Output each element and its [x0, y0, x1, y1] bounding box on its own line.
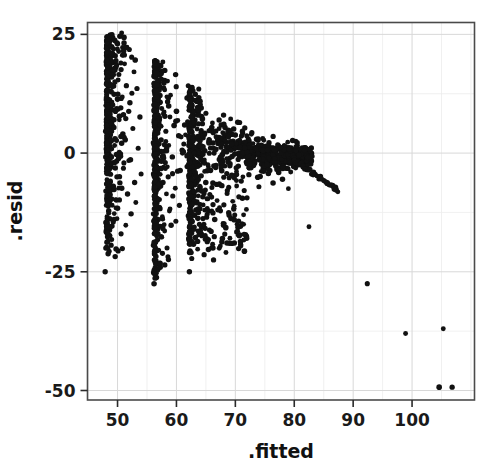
data-point: [305, 155, 311, 161]
data-point: [168, 223, 173, 228]
data-point: [272, 148, 277, 153]
x-tick-label: 80: [282, 410, 306, 430]
data-point: [165, 246, 170, 251]
x-tick-label: 90: [341, 410, 365, 430]
data-point: [182, 122, 188, 128]
data-point: [115, 91, 120, 96]
data-point: [158, 115, 163, 120]
data-point: [219, 183, 224, 188]
data-point: [241, 238, 246, 243]
data-point: [117, 114, 122, 119]
y-axis-title: .resid: [4, 181, 26, 242]
data-point: [153, 185, 158, 190]
data-point: [187, 88, 192, 93]
y-tick-label: 25: [52, 24, 76, 44]
data-point: [187, 237, 192, 242]
data-point: [188, 99, 193, 104]
data-point: [117, 180, 122, 185]
data-point: [200, 146, 205, 151]
data-point: [164, 148, 169, 153]
data-point: [206, 196, 211, 201]
plot-canvas: 5060708090100 250-25-50 .fitted .resid: [0, 0, 502, 472]
data-point: [193, 173, 198, 178]
data-point: [206, 209, 211, 214]
data-point: [186, 231, 192, 237]
data-point: [202, 252, 207, 257]
data-point: [174, 84, 179, 89]
data-point: [108, 172, 113, 177]
data-point: [127, 100, 132, 105]
data-point: [106, 158, 112, 164]
data-point: [166, 174, 171, 179]
data-point: [152, 193, 157, 198]
data-point: [166, 103, 172, 109]
scatter-plot-figure: 5060708090100 250-25-50 .fitted .resid: [0, 0, 502, 472]
data-point: [198, 228, 203, 233]
data-point: [170, 193, 175, 198]
data-point: [168, 115, 173, 120]
data-point: [180, 151, 185, 156]
y-tick-label: -50: [45, 381, 76, 401]
data-point: [154, 146, 159, 151]
data-point: [121, 166, 126, 171]
data-point: [221, 175, 226, 180]
data-point: [234, 178, 239, 183]
data-point: [189, 182, 194, 187]
data-point: [219, 239, 224, 244]
data-point: [255, 151, 260, 156]
data-point: [159, 77, 164, 82]
data-point: [162, 142, 167, 147]
data-point: [261, 168, 267, 174]
data-point: [151, 281, 157, 287]
data-point: [249, 132, 254, 137]
data-point: [217, 126, 222, 131]
data-point: [152, 272, 157, 277]
data-point: [136, 146, 141, 151]
data-point: [286, 186, 291, 191]
data-point: [154, 71, 160, 77]
data-point: [236, 157, 241, 162]
data-point: [205, 162, 210, 167]
data-point: [244, 133, 249, 138]
data-point: [197, 184, 202, 189]
x-tick-label: 100: [394, 410, 430, 430]
data-point: [207, 138, 212, 143]
data-point: [271, 134, 276, 139]
data-point: [278, 145, 283, 150]
data-point: [188, 160, 193, 165]
data-point: [239, 221, 244, 226]
data-point: [177, 168, 182, 173]
data-point: [104, 152, 109, 157]
data-point: [211, 257, 216, 262]
data-point: [200, 194, 205, 199]
data-point: [117, 197, 122, 202]
data-point: [104, 46, 109, 51]
data-point: [160, 226, 165, 231]
data-point: [276, 168, 281, 173]
data-point: [264, 162, 270, 168]
data-point: [110, 103, 115, 108]
y-tick-label: -25: [45, 262, 76, 282]
data-point: [106, 211, 111, 216]
data-point: [183, 132, 188, 137]
data-point: [188, 250, 193, 255]
data-point: [210, 242, 215, 247]
data-point: [111, 187, 116, 192]
data-point: [113, 58, 118, 63]
data-point: [118, 134, 123, 139]
x-tick-label: 70: [224, 410, 248, 430]
data-point: [160, 251, 165, 256]
data-point: [265, 148, 270, 153]
data-point: [152, 225, 158, 231]
data-point: [220, 130, 225, 135]
data-point: [257, 174, 263, 180]
data-point: [188, 214, 193, 219]
data-point: [236, 233, 241, 238]
data-point: [196, 86, 201, 91]
data-point: [189, 256, 194, 261]
data-point: [151, 108, 156, 113]
data-point: [221, 122, 226, 127]
data-point: [261, 138, 266, 143]
data-point: [175, 118, 180, 123]
data-point: [237, 120, 242, 125]
